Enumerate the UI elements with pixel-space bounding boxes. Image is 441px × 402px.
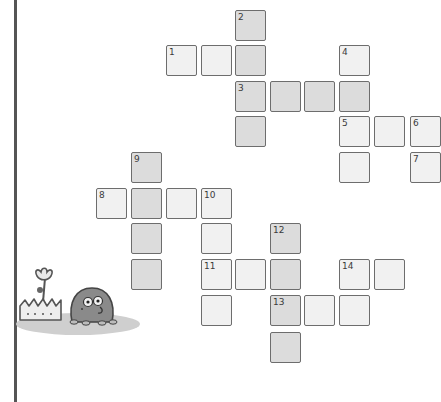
crossword-cell[interactable] [131,223,162,254]
crossword-cell-8[interactable]: 8 [96,188,127,219]
crossword-cell[interactable] [270,332,301,363]
crossword-cell-12[interactable]: 12 [270,223,301,254]
clue-number: 10 [204,190,215,200]
clue-number: 14 [342,261,353,271]
crossword-cell-2[interactable]: 2 [235,10,266,41]
mole-icon [70,288,117,325]
crossword-cell[interactable] [270,81,301,112]
crossword-cell-6[interactable]: 6 [410,116,441,147]
crossword-cell-5[interactable]: 5 [339,116,370,147]
crossword-cell-10[interactable]: 10 [201,188,232,219]
crossword-cell[interactable] [374,259,405,290]
clue-number: 9 [134,154,140,164]
crossword-cell[interactable] [235,45,266,76]
crossword-cell[interactable] [201,45,232,76]
crossword-cell[interactable] [235,116,266,147]
mole-illustration [16,266,146,338]
clue-number: 4 [342,47,348,57]
crossword-cell[interactable] [131,188,162,219]
crossword-cell[interactable] [270,259,301,290]
crossword-cell[interactable] [304,81,335,112]
crossword-cell-11[interactable]: 11 [201,259,232,290]
crossword-cell-4[interactable]: 4 [339,45,370,76]
crossword-cell[interactable] [304,295,335,326]
clue-number: 2 [238,12,244,22]
crossword-cell[interactable] [339,295,370,326]
clue-number: 5 [342,118,348,128]
crossword-cell[interactable] [235,259,266,290]
crossword-cell[interactable] [201,295,232,326]
clue-number: 3 [238,83,244,93]
crossword-cell[interactable] [339,81,370,112]
crossword-cell[interactable] [374,116,405,147]
flower-in-grass-icon [20,268,61,320]
clue-number: 12 [273,225,284,235]
crossword-cell[interactable] [201,223,232,254]
crossword-cell-9[interactable]: 9 [131,152,162,183]
crossword-cell-7[interactable]: 7 [410,152,441,183]
crossword-cell-13[interactable]: 13 [270,295,301,326]
clue-number: 7 [413,154,419,164]
clue-number: 6 [413,118,419,128]
clue-number: 11 [204,261,215,271]
crossword-cell-14[interactable]: 14 [339,259,370,290]
clue-number: 13 [273,297,284,307]
crossword-cell[interactable] [166,188,197,219]
clue-number: 1 [169,47,175,57]
crossword-cell-3[interactable]: 3 [235,81,266,112]
clue-number: 8 [99,190,105,200]
crossword-cell[interactable] [339,152,370,183]
crossword-cell-1[interactable]: 1 [166,45,197,76]
